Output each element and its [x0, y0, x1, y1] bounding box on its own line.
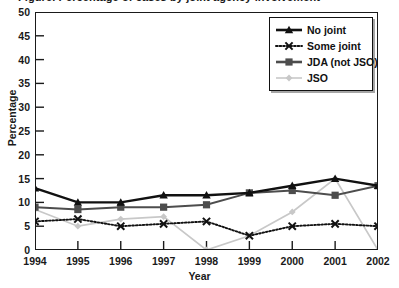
x-tick-label: 2002: [357, 256, 399, 267]
y-tick-label: 5: [2, 221, 30, 231]
x-tick-label: 1998: [186, 256, 228, 267]
legend-item-label: No joint: [304, 24, 346, 36]
x-tick-label: 2000: [271, 256, 313, 267]
legend-item-label: Some joint: [304, 40, 361, 52]
legend-item[interactable]: Some joint: [274, 38, 369, 54]
legend-item-label: JDA (not JSO): [304, 56, 378, 68]
x-tick-label: 1995: [57, 256, 99, 267]
legend-item-label: JSO: [304, 72, 328, 84]
chart-legend: No jointSome jointJDA (not JSO)JSO: [269, 17, 373, 91]
y-tick-label: 15: [2, 174, 30, 184]
legend-diamond-icon: [274, 71, 304, 85]
y-tick-label: 45: [2, 31, 30, 41]
line-chart: Figure. Percentage of cases by joint age…: [0, 0, 399, 288]
x-tick-label: 1994: [14, 256, 56, 267]
x-tick-label: 2001: [314, 256, 356, 267]
legend-square-icon: [274, 55, 304, 69]
x-tick-label: 1999: [228, 256, 270, 267]
y-tick-label: 25: [2, 126, 30, 136]
y-tick-label: 40: [2, 55, 30, 65]
legend-item[interactable]: JSO: [274, 70, 369, 86]
x-tick-label: 1997: [143, 256, 185, 267]
legend-item[interactable]: JDA (not JSO): [274, 54, 369, 70]
x-tick-label: 1996: [100, 256, 142, 267]
y-tick-label: 10: [2, 197, 30, 207]
y-tick-label: 50: [2, 7, 30, 17]
y-axis-label: Percentage: [6, 83, 18, 153]
y-tick-label: 0: [2, 245, 30, 255]
legend-triangle-icon: [274, 23, 304, 37]
legend-cross-icon: [274, 39, 304, 53]
chart-title: Figure. Percentage of cases by joint age…: [18, 0, 320, 3]
y-tick-label: 35: [2, 78, 30, 88]
x-axis-label: Year: [0, 270, 399, 282]
y-tick-label: 20: [2, 150, 30, 160]
chart-title-strip: Figure. Percentage of cases by joint age…: [0, 0, 399, 9]
y-tick-label: 30: [2, 102, 30, 112]
legend-item[interactable]: No joint: [274, 22, 369, 38]
